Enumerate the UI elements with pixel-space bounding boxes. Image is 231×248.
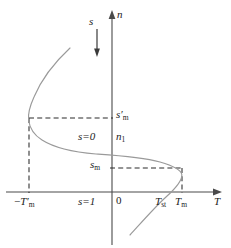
- label-n1: n1: [116, 131, 125, 142]
- label-n1-base: n: [116, 130, 122, 142]
- axis-label-T: T: [214, 196, 220, 207]
- label-neg-T-m-prime: −T′m: [14, 196, 35, 207]
- slip-direction-label: s: [89, 16, 93, 27]
- label-neg-T-m-prime-sub: m: [29, 200, 35, 209]
- label-s-m-prime-sub: m: [123, 113, 129, 122]
- label-T-m: Tm: [175, 196, 187, 207]
- figure-canvas: [0, 0, 231, 248]
- label-T-st-sub: st: [161, 200, 166, 209]
- label-T-m-sub: m: [181, 200, 187, 209]
- label-n1-sub: 1: [122, 135, 126, 144]
- dashed-guides: [29, 118, 182, 193]
- label-s-equals-one: s=1: [78, 196, 95, 207]
- figure-root: n s s′m s=0 n1 sm −T′m s=1 0 Tst Tm T: [0, 0, 231, 248]
- label-s-m: sm: [90, 159, 100, 170]
- label-s-equals-zero: s=0: [78, 131, 95, 142]
- label-s-m-prime: s′m: [116, 109, 129, 120]
- axis-label-n: n: [117, 9, 123, 20]
- horizontal-axis: [6, 189, 222, 196]
- label-origin: 0: [116, 195, 122, 206]
- label-s-m-sub: m: [94, 163, 100, 172]
- slip-direction-arrow: [94, 29, 100, 57]
- vertical-axis: [109, 10, 116, 245]
- label-T-st: Tst: [155, 196, 166, 207]
